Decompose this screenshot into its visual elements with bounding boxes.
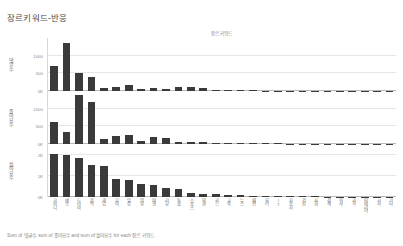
bar[interactable] [75,73,83,91]
x-tick-label: 교육 [226,198,231,228]
x-tick-label: 패션 [250,198,255,228]
x-tick[interactable]: 예능 [59,198,71,228]
bar[interactable] [199,194,207,197]
bar-slot [346,91,358,144]
panel-dislikes [47,144,396,197]
bar[interactable] [212,194,220,197]
bar[interactable] [88,165,96,197]
bar[interactable] [112,179,120,197]
bar[interactable] [50,66,58,91]
bar[interactable] [100,166,108,197]
x-tick[interactable]: 교육 [222,198,234,228]
x-tick[interactable]: 기타 [384,198,396,228]
bar-slot [48,91,60,144]
y-axis-dislikes: 0K1K2K [23,144,45,197]
bar-slot [272,144,284,197]
bar[interactable] [175,189,183,197]
x-tick[interactable]: 경제 [321,198,333,228]
bar-slot [309,144,321,197]
x-tick[interactable]: 코미디 [47,198,59,228]
bar[interactable] [150,185,158,197]
y-tick-label: 1000 [33,106,43,111]
bar-slot [234,144,246,197]
bar[interactable] [50,154,58,197]
x-tick[interactable]: 게임 [97,198,109,228]
bar-slot [60,144,72,197]
x-tick[interactable]: 먹방 [134,198,146,228]
bar[interactable] [112,136,120,144]
x-tick[interactable]: 패션 [247,198,259,228]
x-tick[interactable]: 뉴스 [234,198,246,228]
page-title: 장르키워드-반응 [7,11,67,23]
bar[interactable] [162,188,170,197]
x-tick[interactable]: 인테리어 [359,198,371,228]
x-tick-label: 음악 [88,198,93,228]
bar[interactable] [299,196,307,197]
x-tick[interactable]: 시사 [371,198,383,228]
bar-slot [135,144,147,197]
bar-slot [147,38,159,91]
x-tick[interactable]: 일상 [122,198,134,228]
bar-slot [359,144,371,197]
x-tick[interactable]: 키즈 [209,198,221,228]
x-tick[interactable]: 드라마 [72,198,84,228]
bar-slot [110,38,122,91]
x-tick[interactable]: IT [271,198,283,228]
bar-slot [135,38,147,91]
x-tick[interactable]: 영화 [197,198,209,228]
x-tick[interactable]: 여행 [147,198,159,228]
bar[interactable] [63,155,71,197]
bar[interactable] [286,196,294,197]
bar[interactable] [75,95,83,144]
x-tick-label: 예능 [63,198,68,228]
caption: Sum of 댓글수, sum of 좋아요수 and sum of 싫어요수 … [7,231,155,238]
x-tick[interactable]: 사회 [309,198,321,228]
y-tick-label: 2K [38,152,43,157]
bar-slot [383,91,395,144]
x-tick[interactable]: 건강 [296,198,308,228]
bar[interactable] [125,180,133,197]
bar-group [48,91,396,144]
plot-area [47,29,396,197]
x-tick-label: IT [275,198,280,228]
bar-slot [123,38,135,91]
bar[interactable] [237,195,245,197]
bar[interactable] [274,196,282,197]
bar-slot [85,91,97,144]
bar[interactable] [137,184,145,197]
bar[interactable] [63,132,71,144]
bar[interactable] [75,158,83,197]
x-tick-label: 자동차 [288,198,293,228]
bar-slot [98,91,110,144]
bar[interactable] [125,135,133,144]
x-tick[interactable]: 음악 [84,198,96,228]
x-tick[interactable]: 요리 [259,198,271,228]
bar-slot [98,144,110,197]
bar[interactable] [63,43,71,91]
bar[interactable] [88,77,96,91]
bar-slot [259,91,271,144]
bar-slot [172,91,184,144]
x-tick[interactable]: 뷰티 [109,198,121,228]
y-axis-title-dislikes: 싫어요수 [4,150,14,192]
y-axis-title-likes: 좋아요수 [4,97,14,139]
bar[interactable] [187,193,195,197]
bar[interactable] [249,196,257,197]
panel-comments [47,38,396,91]
x-tick[interactable]: 자동차 [284,198,296,228]
x-tick[interactable]: 역사 [334,198,346,228]
bar[interactable] [50,122,58,144]
bar[interactable] [262,196,270,197]
bar-slot [98,38,110,91]
x-tick[interactable]: 동물 [172,198,184,228]
x-tick[interactable]: 스포츠 [184,198,196,228]
bar[interactable] [88,102,96,144]
x-tick[interactable]: 리뷰 [159,198,171,228]
bar-slot [346,38,358,91]
bar-slot [123,91,135,144]
x-tick-label: 키즈 [213,198,218,228]
bar-slot [234,91,246,144]
bar[interactable] [224,195,232,197]
x-tick[interactable]: 과학 [346,198,358,228]
bar[interactable] [311,196,319,197]
